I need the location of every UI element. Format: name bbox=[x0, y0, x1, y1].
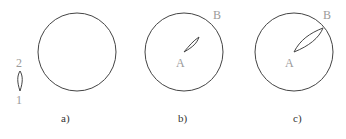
caption-b: b) bbox=[178, 112, 188, 125]
label-A-b: A bbox=[176, 56, 185, 70]
label-2: 2 bbox=[16, 56, 22, 70]
caption-c: c) bbox=[293, 112, 302, 125]
leaf-shape-a bbox=[18, 71, 23, 91]
diagram-canvas: 2 1 a) A B b) A B c) bbox=[0, 0, 346, 139]
label-B-c: B bbox=[323, 8, 331, 22]
leaf-shape-b bbox=[184, 37, 199, 52]
label-B-b: B bbox=[213, 8, 221, 22]
caption-a: a) bbox=[61, 112, 70, 125]
circle-a bbox=[38, 13, 116, 91]
panel-b: A B b) bbox=[145, 8, 223, 125]
leaf-shape-c bbox=[294, 28, 323, 52]
label-A-c: A bbox=[285, 56, 294, 70]
label-1: 1 bbox=[16, 93, 22, 107]
panel-a: 2 1 a) bbox=[16, 13, 116, 125]
panel-c: A B c) bbox=[255, 8, 333, 125]
